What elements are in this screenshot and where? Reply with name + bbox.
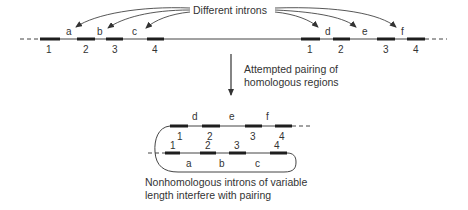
exon-left-1	[40, 38, 60, 41]
intron-arrows-right	[275, 8, 396, 27]
intron-label-b: b	[97, 26, 103, 37]
exon-number: 3	[234, 140, 240, 151]
exon-bottom-1	[165, 152, 180, 155]
caption-line-1: Nonhomologous introns of variable	[145, 176, 307, 188]
exon-right-4	[407, 38, 425, 41]
exon-number: 1	[307, 44, 313, 55]
exon-bottom-3	[229, 152, 246, 155]
step-text-line-2: homologous regions	[244, 76, 339, 88]
intron-arrows-left	[76, 8, 190, 28]
step-text-line-1: Attempted pairing of	[244, 63, 338, 75]
intron-label-d: d	[325, 26, 331, 37]
exon-right-2	[333, 38, 350, 41]
exon-number: 2	[205, 140, 211, 151]
exon-number: 4	[413, 44, 419, 55]
exon-left-4	[147, 38, 164, 41]
intron-label-f: f	[266, 111, 269, 122]
exon-number: 3	[112, 44, 118, 55]
arrow-to-intron-d	[275, 12, 318, 27]
arrow-to-intron-c	[146, 12, 190, 28]
exon-right-1	[301, 38, 320, 41]
exon-number: 1	[177, 131, 183, 142]
exon-number: 2	[338, 44, 344, 55]
caption-line-2: length interfere with pairing	[145, 189, 271, 201]
exon-number: 4	[279, 131, 285, 142]
exon-number: 1	[46, 44, 52, 55]
exon-bottom-4	[270, 152, 287, 155]
exon-top-1	[170, 125, 188, 128]
exon-top-2	[202, 125, 220, 128]
intron-label-c: c	[132, 26, 137, 37]
exon-number: 4	[152, 44, 158, 55]
exon-number: 2	[83, 44, 89, 55]
exon-number: 4	[274, 140, 280, 151]
intron-label-e: e	[362, 26, 368, 37]
intron-label-c: c	[255, 158, 260, 169]
exon-left-3	[106, 38, 123, 41]
exon-number: 3	[383, 44, 389, 55]
exon-top-4	[275, 125, 292, 128]
gene-line-top	[20, 38, 447, 41]
exon-left-2	[77, 38, 95, 41]
intron-label-d: d	[192, 111, 198, 122]
exon-number: 3	[250, 131, 256, 142]
intron-pairing-diagram: Different introns a b c 1 2 3 4 d e f 1 …	[0, 0, 468, 210]
intron-label-f: f	[401, 26, 404, 37]
intron-label-e: e	[229, 111, 235, 122]
exon-top-3	[245, 125, 262, 128]
exon-bottom-2	[200, 152, 216, 155]
intron-label-a: a	[186, 158, 192, 169]
exon-right-3	[377, 38, 395, 41]
intron-label-b: b	[219, 158, 225, 169]
different-introns-label: Different introns	[193, 4, 267, 16]
exon-number: 1	[170, 140, 176, 151]
intron-label-a: a	[66, 26, 72, 37]
